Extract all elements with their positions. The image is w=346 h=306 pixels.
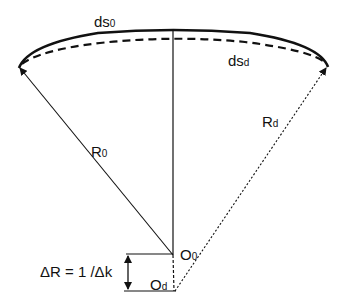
label-delta-r: ΔR = 1 /Δk <box>40 264 112 279</box>
label-o0: O0 <box>180 247 197 262</box>
label-od: Od <box>150 277 167 292</box>
curvature-diagram: ds0 dsd R0 Rd O0 Od ΔR = 1 /Δk <box>0 0 346 306</box>
label-dsd: dsd <box>228 53 249 68</box>
arc-dsd <box>22 39 326 64</box>
center-dashed <box>173 255 174 291</box>
rd-arrow <box>175 68 326 291</box>
label-r0: R0 <box>91 144 107 159</box>
r0-arrow <box>20 68 173 255</box>
label-ds0: ds0 <box>94 14 115 29</box>
diagram-canvas <box>0 0 346 306</box>
label-rd: Rd <box>262 114 278 129</box>
